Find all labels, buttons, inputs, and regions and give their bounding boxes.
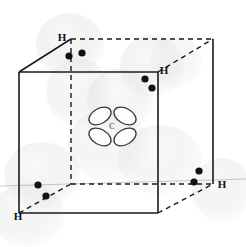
hydrogen-label-back-bottom-right: H xyxy=(218,178,227,190)
electron-dot xyxy=(34,181,41,188)
hydrogen-label-front-bottom-left: H xyxy=(14,210,23,222)
electron-dot xyxy=(42,192,49,199)
electron-dot xyxy=(78,49,85,56)
electron-dot xyxy=(190,178,197,185)
hydrogen-label-back-top-left: H xyxy=(58,31,67,43)
hydrogen-label-front-top-right: H xyxy=(160,64,169,76)
molecule-diagram-svg: C H H H H xyxy=(0,0,246,247)
electron-dot xyxy=(65,52,72,59)
electron-dot xyxy=(141,75,148,82)
electron-dot xyxy=(195,167,202,174)
carbon-atom-label: C xyxy=(109,122,115,131)
methane-tetrahedral-figure: C H H H H xyxy=(0,0,246,247)
electron-dot xyxy=(148,84,155,91)
